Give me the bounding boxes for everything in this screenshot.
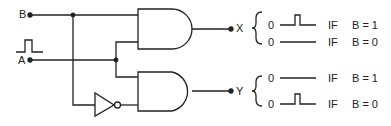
input-a-terminal	[28, 58, 32, 62]
y-row1-if: IF	[328, 73, 338, 84]
x-row2-condition: B = 0	[352, 37, 378, 48]
y-row2-if: IF	[328, 99, 338, 110]
output-x-label: X	[236, 23, 243, 34]
inverter-bubble	[115, 102, 121, 108]
input-a-label: A	[18, 55, 25, 66]
upper-and-gate	[138, 9, 192, 49]
y-row1-condition: B = 1	[352, 73, 378, 84]
y-row1-level: 0	[268, 73, 274, 84]
input-b-label: B	[19, 9, 26, 20]
wire-a-to-lower-gate	[116, 60, 138, 77]
logic-diagram: B A X Y 0 IF B = 1 0 IF B = 0 0 IF B = 1…	[0, 0, 391, 126]
inverter	[95, 93, 114, 116]
wire-a-to-upper-gate	[116, 42, 138, 60]
x-row1-if: IF	[328, 20, 338, 31]
x-row2-if: IF	[328, 37, 338, 48]
y-row2-level: 0	[268, 99, 274, 110]
x-row1-condition: B = 1	[352, 20, 378, 31]
input-pulse-icon	[16, 40, 43, 52]
x-row2-level: 0	[268, 37, 274, 48]
input-b-terminal	[28, 13, 32, 17]
x-row1-level: 0	[268, 20, 274, 31]
lower-and-gate	[138, 72, 188, 111]
brace-y	[252, 76, 262, 106]
y-row2-condition: B = 0	[352, 99, 378, 110]
output-y-terminal	[229, 89, 233, 93]
output-y-label: Y	[236, 86, 243, 97]
y-waveform-pulse	[280, 94, 316, 104]
brace-x	[252, 12, 262, 44]
x-waveform-pulse	[280, 15, 316, 25]
output-x-terminal	[229, 27, 233, 31]
